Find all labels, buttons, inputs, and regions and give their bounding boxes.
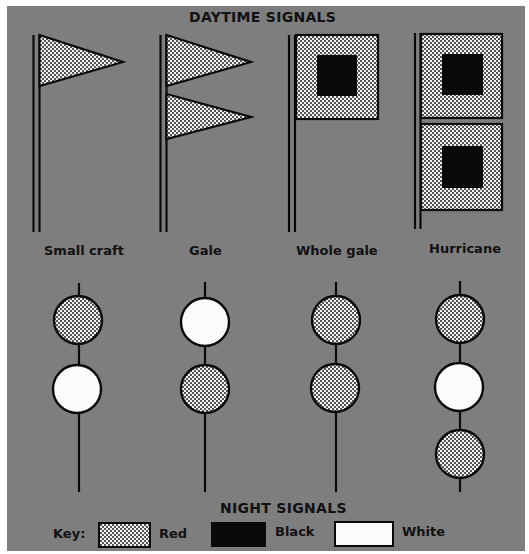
daytime-title: DAYTIME SIGNALS: [189, 9, 336, 25]
red-light-icon: [312, 296, 360, 344]
night-whole-gale: [311, 282, 360, 492]
flagpole-icon: [289, 35, 295, 232]
caption-gale: Gale: [189, 243, 222, 258]
daytime-hurricane: [415, 33, 502, 229]
red-light-icon: [436, 295, 484, 343]
red-pennant-icon: [167, 35, 252, 86]
red-black-square-flag-icon: [421, 124, 502, 210]
key-label: Key:: [53, 526, 85, 541]
red-light-icon: [311, 364, 359, 412]
caption-whole-gale: Whole gale: [296, 243, 378, 258]
night-gale: [181, 282, 229, 492]
white-light-icon: [181, 298, 229, 346]
night-hurricane: [435, 281, 484, 492]
daytime-small-craft: [34, 35, 124, 232]
night-title: NIGHT SIGNALS: [220, 500, 347, 516]
caption-hurricane: Hurricane: [429, 241, 501, 256]
red-black-square-flag-icon: [421, 34, 502, 118]
key-swatch-white: [335, 522, 393, 546]
flagpole-icon: [415, 33, 421, 229]
red-light-icon: [181, 365, 229, 413]
white-light-icon: [435, 363, 483, 411]
key-swatch-black: [211, 522, 266, 547]
caption-small-craft: Small craft: [44, 243, 124, 258]
white-light-icon: [53, 365, 101, 413]
key-label-black: Black: [275, 524, 315, 539]
red-light-icon: [54, 296, 102, 344]
key-label-white: White: [402, 524, 445, 539]
daytime-whole-gale: [289, 35, 378, 232]
key-swatch-red: [99, 523, 150, 547]
key-label-red: Red: [159, 526, 187, 541]
red-light-icon: [436, 430, 484, 478]
red-black-square-flag-icon: [296, 35, 378, 119]
signals-diagram: [0, 0, 529, 554]
night-small-craft: [53, 283, 102, 492]
red-pennant-icon: [40, 35, 124, 86]
daytime-gale: [161, 35, 252, 232]
red-pennant-icon: [167, 94, 252, 139]
